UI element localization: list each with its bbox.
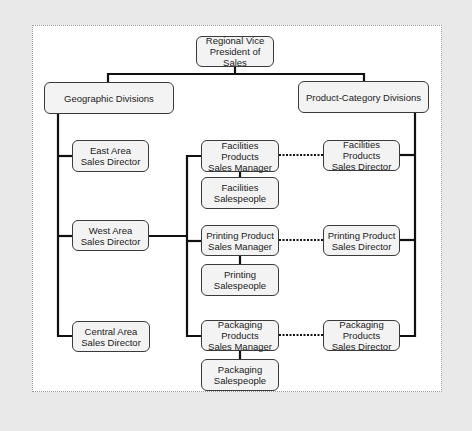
node-facilities-director: Facilities Products Sales Director	[323, 140, 400, 171]
node-printing-director: Printing Product Sales Director	[323, 225, 400, 256]
node-west-area-director: West Area Sales Director	[72, 220, 149, 251]
node-packaging-director: Packaging Products Sales Director	[323, 320, 400, 351]
node-east-area-director: East Area Sales Director	[72, 140, 149, 172]
node-printing-manager: Printing Product Sales Manager	[201, 225, 279, 256]
node-packaging-manager: Packaging Products Sales Manager	[201, 320, 279, 351]
node-facilities-salespeople: Facilities Salespeople	[201, 177, 279, 209]
geo-trunk	[58, 114, 72, 336]
manager-trunk	[187, 156, 201, 336]
node-product-category-divisions: Product-Category Divisions	[298, 81, 429, 113]
node-packaging-salespeople: Packaging Salespeople	[201, 359, 279, 391]
node-geographic-divisions: Geographic Divisions	[44, 82, 174, 114]
node-facilities-manager: Facilities Products Sales Manager	[201, 140, 279, 172]
node-central-area-director: Central Area Sales Director	[72, 321, 150, 352]
node-regional-vp: Regional Vice President of Sales	[196, 36, 274, 67]
node-printing-salespeople: Printing Salespeople	[201, 264, 279, 296]
prod-trunk	[400, 113, 415, 336]
